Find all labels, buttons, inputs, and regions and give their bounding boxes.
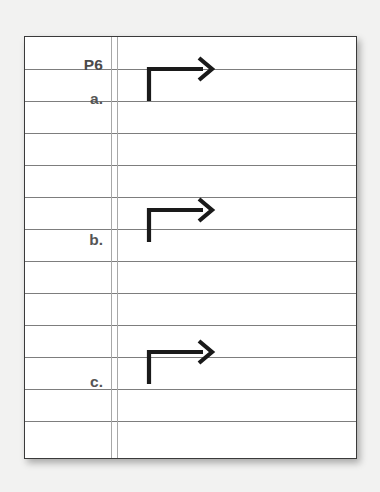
ruled-line: [25, 165, 356, 166]
item-label-a: a.: [90, 91, 103, 107]
page-number-label: P6: [84, 57, 103, 73]
right-turn-arrow: [135, 196, 226, 256]
arrow-stem: [149, 210, 203, 242]
notebook-page: P6a.b.c.: [24, 36, 357, 459]
ruled-line: [25, 133, 356, 134]
screenshot-canvas: P6a.b.c.: [0, 0, 380, 492]
ruled-line: [25, 261, 356, 262]
right-turn-arrow: [135, 55, 226, 115]
margin-rule: [117, 37, 118, 458]
ruled-line: [25, 421, 356, 422]
arrow-stem: [149, 352, 203, 384]
ruled-line: [25, 325, 356, 326]
item-label-c: c.: [90, 374, 103, 390]
arrow-stem: [149, 69, 203, 101]
item-label-b: b.: [89, 232, 103, 248]
ruled-line: [25, 293, 356, 294]
right-turn-arrow: [135, 338, 226, 398]
page-content-area: P6a.b.c.: [25, 37, 356, 458]
margin-rule: [111, 37, 112, 458]
